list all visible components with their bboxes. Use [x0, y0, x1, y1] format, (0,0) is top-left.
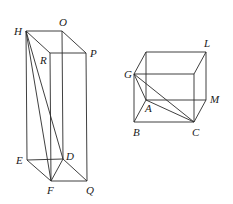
vertex-label-D: D — [65, 150, 74, 162]
cube: LGAMBC — [124, 37, 220, 138]
vertex-label-L: L — [203, 37, 210, 49]
edge-O-P — [62, 31, 86, 53]
edge-F-E — [27, 160, 51, 181]
vertex-label-Q: Q — [86, 184, 94, 196]
vertex-label-C: C — [192, 126, 200, 138]
edge-L-T4 — [194, 52, 206, 74]
edge-P-Q — [86, 53, 87, 181]
geometry-diagram: HOPREDFQ LGAMBC — [0, 0, 233, 204]
edge-G-C — [134, 74, 194, 122]
vertex-label-P: P — [89, 47, 97, 59]
vertex-label-F: F — [46, 184, 54, 196]
vertex-label-A: A — [144, 102, 152, 114]
vertex-label-M: M — [209, 93, 220, 105]
edge-E-D — [27, 159, 63, 160]
edge-M-C — [194, 100, 206, 122]
vertex-label-H: H — [13, 25, 23, 37]
vertex-label-E: E — [15, 154, 23, 166]
vertex-label-B: B — [133, 126, 140, 138]
edge-H-E — [26, 31, 27, 160]
vertex-label-O: O — [59, 16, 67, 28]
edge-D-F — [51, 159, 63, 181]
vertex-label-G: G — [124, 68, 132, 80]
edge-G-A — [134, 74, 146, 100]
edge-G-T1 — [134, 52, 146, 74]
edge-D-Q — [63, 159, 87, 181]
tall-rectangular-prism: HOPREDFQ — [13, 16, 97, 196]
vertex-label-R: R — [39, 54, 47, 66]
edge-O-D — [62, 31, 63, 159]
